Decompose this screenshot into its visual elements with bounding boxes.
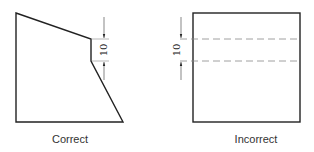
caption-incorrect: Incorrect xyxy=(235,133,278,145)
correct-shape-outline xyxy=(16,13,123,122)
correct-figure: 10 Correct xyxy=(16,13,123,145)
dimension-value: 10 xyxy=(171,44,182,57)
caption-correct: Correct xyxy=(52,133,88,145)
dimension-value: 10 xyxy=(98,44,109,57)
incorrect-figure: 10 Incorrect xyxy=(171,13,301,145)
incorrect-shape-outline xyxy=(193,13,300,122)
diagram-canvas: 10 Correct 10 Incorrect xyxy=(0,0,314,152)
